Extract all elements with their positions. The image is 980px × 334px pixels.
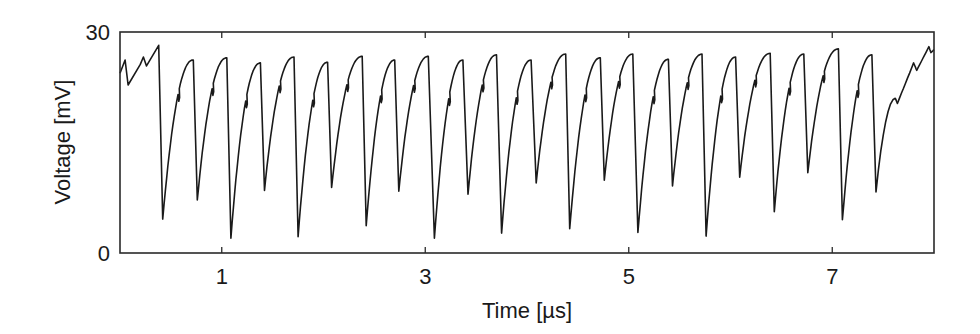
x-tick-label: 7 <box>826 264 838 289</box>
y-tick-label: 0 <box>98 241 110 266</box>
x-tick-label: 5 <box>623 264 635 289</box>
x-tick-label: 3 <box>419 264 431 289</box>
voltage-time-chart: 1357 030 Time [µs] Voltage [mV] <box>0 0 980 334</box>
y-tick-label: 30 <box>86 20 110 45</box>
y-axis-label: Voltage [mV] <box>50 80 75 205</box>
x-axis-label: Time [µs] <box>482 298 572 323</box>
x-tick-label: 1 <box>216 264 228 289</box>
